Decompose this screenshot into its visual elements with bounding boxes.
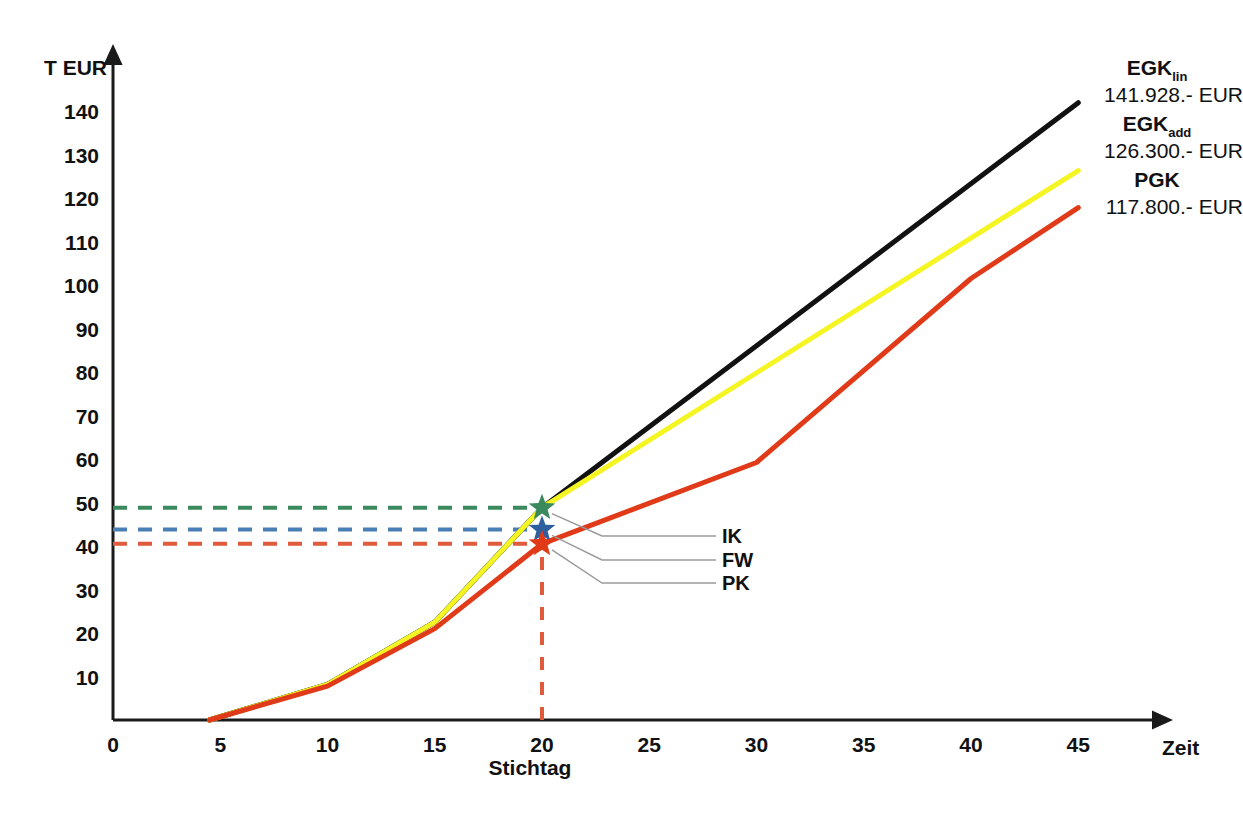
leader-line-pk (552, 550, 716, 583)
series-line-pgk (210, 208, 1079, 720)
y-tick-label: 20 (76, 622, 99, 645)
x-axis-title: Zeit (1162, 736, 1199, 759)
y-tick-label: 10 (76, 666, 99, 689)
leader-line-fw (552, 535, 716, 560)
y-tick-label: 60 (76, 448, 99, 471)
x-tick-label: 10 (316, 733, 339, 756)
x-tick-label: 40 (959, 733, 982, 756)
y-axis-ticks: 102030405060708090100110120130140 (64, 100, 99, 689)
y-tick-label: 120 (64, 187, 99, 210)
y-tick-label: 40 (76, 535, 99, 558)
x-tick-label: 15 (423, 733, 447, 756)
x-tick-label: 45 (1067, 733, 1091, 756)
marker-leader-lines (552, 514, 716, 583)
line-chart: 102030405060708090100110120130140 051015… (0, 0, 1243, 816)
y-tick-label: 50 (76, 492, 99, 515)
x-tick-label: 20 (530, 733, 553, 756)
x-tick-label: 30 (745, 733, 768, 756)
x-axis-ticks: 051015202530354045 (107, 733, 1090, 756)
y-tick-label: 80 (76, 361, 99, 384)
series-line-egk-lin (210, 103, 1079, 720)
stichtag-annotation: Stichtag (489, 756, 572, 779)
y-axis-title: T EUR (44, 56, 107, 79)
series-lines (210, 103, 1079, 720)
series-label-name-0: EGKlin (1127, 56, 1188, 84)
x-tick-label: 0 (107, 733, 119, 756)
y-tick-label: 130 (64, 144, 99, 167)
series-label-value-0: 141.928.- EUR (1104, 83, 1243, 106)
y-tick-label: 100 (64, 274, 99, 297)
y-tick-label: 30 (76, 579, 99, 602)
series-label-value-1: 126.300.- EUR (1104, 139, 1243, 162)
series-label-value-2: 117.800.- EUR (1106, 195, 1243, 218)
marker-label-fw: FW (722, 549, 753, 571)
x-tick-label: 35 (852, 733, 876, 756)
series-line-egk-add (210, 171, 1079, 720)
y-tick-label: 140 (64, 100, 99, 123)
marker-label-ik: IK (722, 525, 743, 547)
series-line-ik-verlauf (210, 508, 543, 720)
series-labels: EGKlin141.928.- EUREGKadd126.300.- EURPG… (1104, 56, 1243, 218)
series-label-name-2: PGK (1134, 168, 1180, 191)
x-tick-label: 5 (214, 733, 226, 756)
marker-labels: IKFWPK (722, 525, 753, 594)
series-label-name-1: EGKadd (1123, 112, 1192, 140)
y-tick-label: 110 (65, 231, 99, 254)
chart-container: 102030405060708090100110120130140 051015… (0, 0, 1243, 816)
x-tick-label: 25 (638, 733, 662, 756)
y-tick-label: 90 (76, 318, 99, 341)
marker-label-pk: PK (722, 572, 750, 594)
y-tick-label: 70 (76, 405, 99, 428)
